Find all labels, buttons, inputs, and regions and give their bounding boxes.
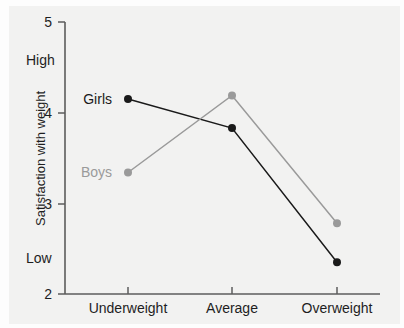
y-tick-label-5: 5 bbox=[44, 14, 52, 30]
y-axis-title: Satisfaction with weight bbox=[33, 90, 48, 226]
x-label-average: Average bbox=[206, 300, 258, 316]
data-point-boys-overweight bbox=[333, 219, 341, 227]
x-label-underweight: Underweight bbox=[89, 300, 168, 316]
y-tick-label-2: 2 bbox=[44, 286, 52, 302]
data-point-boys-average bbox=[228, 91, 236, 99]
series-label-girls: Girls bbox=[83, 91, 112, 107]
series-label-boys: Boys bbox=[81, 164, 112, 180]
series-layer bbox=[124, 91, 341, 266]
data-point-girls-average bbox=[228, 124, 236, 132]
y-anchor-high-label: High bbox=[26, 52, 55, 68]
series-line-boys bbox=[128, 95, 337, 223]
y-anchor-low-label: Low bbox=[26, 250, 53, 266]
line-chart-plot: 5 4 3 2 High Low Satisfaction with weigh… bbox=[0, 0, 404, 328]
series-line-girls bbox=[128, 99, 337, 262]
x-label-overweight: Overweight bbox=[302, 300, 373, 316]
data-point-boys-underweight bbox=[124, 169, 132, 177]
data-point-girls-overweight bbox=[333, 258, 341, 266]
chart-figure: 5 4 3 2 High Low Satisfaction with weigh… bbox=[0, 0, 404, 328]
data-point-girls-underweight bbox=[124, 95, 132, 103]
